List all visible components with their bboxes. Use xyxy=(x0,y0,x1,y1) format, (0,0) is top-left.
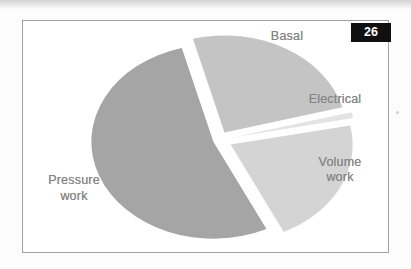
scanned-slide: Basal Electrical Volume work Pressure wo… xyxy=(0,0,411,269)
pie-label-volume-work: Volume work xyxy=(307,155,373,185)
pie-label-electrical: Electrical xyxy=(297,92,373,107)
pie-label-pressure-work: Pressure work xyxy=(38,172,110,204)
pie-slices xyxy=(91,35,353,238)
pie-chart xyxy=(0,0,411,269)
scan-speck xyxy=(396,111,399,114)
slide-number-badge: 26 xyxy=(351,23,391,42)
pie-label-basal: Basal xyxy=(251,29,323,44)
pie-slice-basal xyxy=(193,35,342,132)
